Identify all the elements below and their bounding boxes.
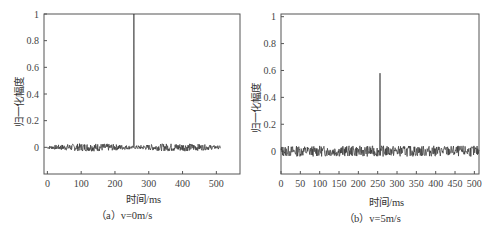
x-tick-label: 300 [141, 178, 156, 189]
x-tick-label: 400 [428, 178, 443, 189]
y-tick-label: 0.2 [27, 115, 40, 126]
y-tick-label: 0.6 [264, 65, 277, 76]
y-tick-label: 0.8 [264, 38, 277, 49]
caption-a: （a）v=0m/s [96, 207, 152, 222]
signal-line [281, 73, 479, 156]
caption-b: （b）v=5m/s [344, 210, 401, 225]
x-tick-label: 0 [45, 178, 50, 189]
x-tick-label: 350 [409, 178, 424, 189]
y-axis-label-b: 归一化幅度 [248, 78, 263, 138]
plot-frame [44, 14, 240, 174]
x-tick-label: 0 [279, 178, 284, 189]
y-tick-label: 0.4 [27, 89, 40, 100]
x-tick-label: 200 [107, 178, 122, 189]
x-tick-label: 150 [332, 178, 347, 189]
y-tick-label: 0 [34, 142, 39, 153]
x-axis-label-b: 时间/ms [369, 194, 404, 209]
x-tick-label: 400 [175, 178, 190, 189]
y-tick-label: 0.4 [264, 92, 277, 103]
chart-panel-b: 00.20.40.60.8105010015020025030035040045… [247, 0, 494, 235]
y-tick-label: 0.6 [27, 62, 40, 73]
x-axis-label-a: 时间/ms [126, 191, 161, 206]
x-tick-label: 50 [295, 178, 305, 189]
x-tick-label: 100 [312, 178, 327, 189]
x-tick-label: 300 [390, 178, 405, 189]
x-tick-label: 450 [448, 178, 463, 189]
y-tick-label: 0.2 [264, 119, 277, 130]
signal-line [47, 14, 220, 151]
x-tick-label: 500 [209, 178, 224, 189]
x-tick-label: 200 [351, 178, 366, 189]
plot-area-a: 00.20.40.60.810100200300400500 [0, 0, 247, 235]
y-tick-label: 1 [34, 9, 39, 20]
x-tick-label: 250 [370, 178, 385, 189]
x-tick-label: 500 [467, 178, 482, 189]
y-axis-label-a: 归一化幅度 [11, 72, 26, 132]
y-tick-label: 0 [271, 146, 276, 157]
x-tick-label: 100 [74, 178, 89, 189]
y-tick-label: 0.8 [27, 35, 40, 46]
y-tick-label: 1 [271, 11, 276, 22]
chart-panel-a: 00.20.40.60.810100200300400500 归一化幅度 时间/… [0, 0, 247, 235]
